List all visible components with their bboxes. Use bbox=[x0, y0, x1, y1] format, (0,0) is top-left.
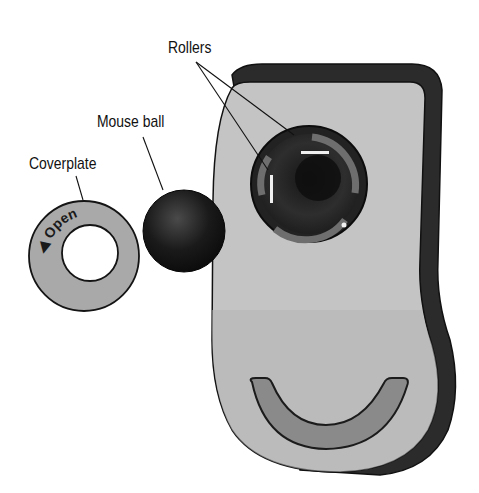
coverplate-hole bbox=[62, 225, 118, 281]
roller-pin bbox=[342, 223, 347, 228]
rollers-label: Rollers bbox=[168, 38, 211, 58]
mouse-ball bbox=[143, 190, 225, 272]
mouse-underside-diagram: ◀ Open bbox=[0, 0, 479, 493]
ball-socket bbox=[251, 126, 367, 242]
mouse-body bbox=[212, 64, 456, 475]
ball-socket-center bbox=[295, 155, 341, 201]
mouse-ball-leader bbox=[143, 137, 163, 190]
mouse-ball-label: Mouse ball bbox=[97, 112, 164, 132]
roller-vertical bbox=[270, 175, 273, 203]
coverplate: ◀ Open bbox=[29, 201, 139, 311]
coverplate-leader bbox=[76, 176, 83, 200]
roller-horizontal bbox=[301, 151, 329, 154]
coverplate-label: Coverplate bbox=[29, 154, 96, 174]
